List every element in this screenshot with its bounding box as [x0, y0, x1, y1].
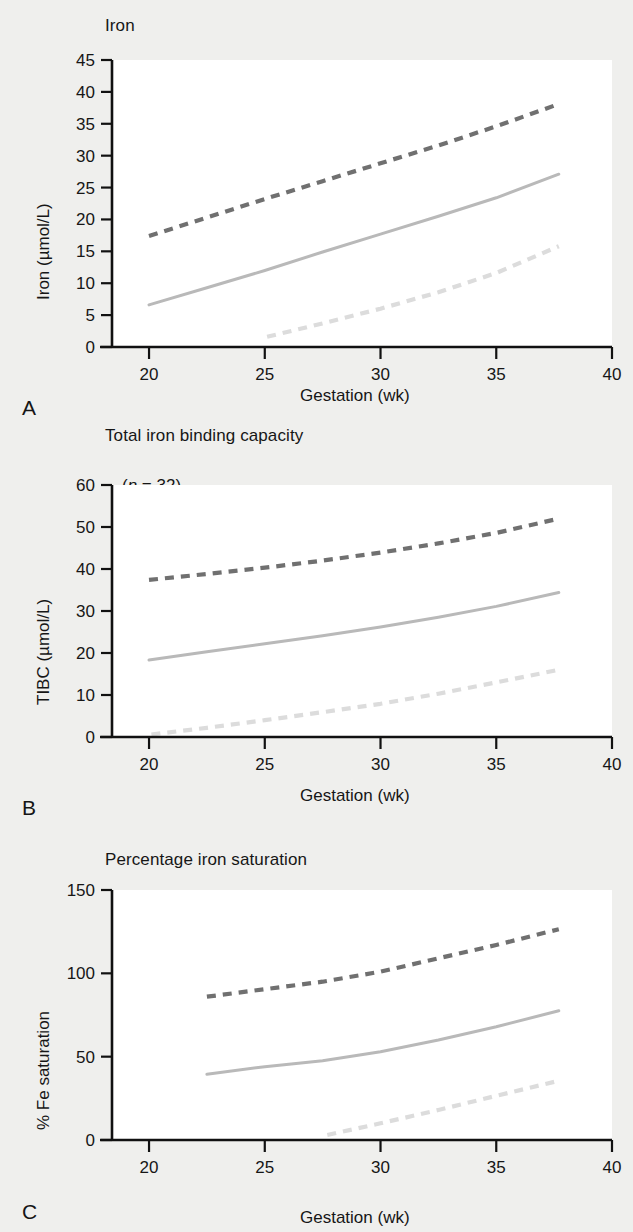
y-tick-label: 35 — [76, 115, 95, 134]
panel-c-plot: 0501001502025303540 — [0, 810, 633, 1232]
x-tick-label: 40 — [603, 1158, 622, 1177]
x-tick-label: 30 — [371, 365, 390, 384]
x-tick-label: 25 — [255, 755, 274, 774]
x-tick-label: 20 — [140, 1158, 159, 1177]
y-tick-label: 40 — [76, 560, 95, 579]
figure-root: Iron (n = 33) Iron (µmol/L) Gestation (w… — [0, 0, 633, 1232]
x-tick-label: 40 — [603, 365, 622, 384]
panel-c: Percentage iron saturation (n = 32) % Fe… — [0, 810, 633, 1232]
y-tick-label: 10 — [76, 686, 95, 705]
x-tick-label: 25 — [255, 365, 274, 384]
panel-a-plot: 0510152025303540452025303540 — [0, 0, 633, 410]
panel-b: Total iron binding capacity (n = 32) TIB… — [0, 410, 633, 810]
x-tick-label: 20 — [140, 755, 159, 774]
x-tick-label: 35 — [487, 755, 506, 774]
x-tick-label: 30 — [371, 1158, 390, 1177]
panel-a: Iron (n = 33) Iron (µmol/L) Gestation (w… — [0, 0, 633, 410]
y-tick-label: 100 — [67, 964, 95, 983]
y-tick-label: 30 — [76, 602, 95, 621]
y-tick-label: 50 — [76, 1048, 95, 1067]
y-tick-label: 0 — [86, 1131, 95, 1150]
y-tick-label: 0 — [86, 338, 95, 357]
panel-b-plot: 01020304050602025303540 — [0, 410, 633, 810]
x-tick-label: 25 — [255, 1158, 274, 1177]
y-tick-label: 45 — [76, 51, 95, 70]
y-tick-label: 15 — [76, 242, 95, 261]
x-tick-label: 35 — [487, 1158, 506, 1177]
x-tick-label: 35 — [487, 365, 506, 384]
y-tick-label: 5 — [86, 306, 95, 325]
y-tick-label: 25 — [76, 179, 95, 198]
y-tick-label: 60 — [76, 476, 95, 495]
y-tick-label: 0 — [86, 728, 95, 747]
y-tick-label: 150 — [67, 881, 95, 900]
y-tick-label: 20 — [76, 210, 95, 229]
y-tick-label: 50 — [76, 518, 95, 537]
y-tick-label: 30 — [76, 147, 95, 166]
x-tick-label: 20 — [140, 365, 159, 384]
y-tick-label: 20 — [76, 644, 95, 663]
x-tick-label: 40 — [603, 755, 622, 774]
x-tick-label: 30 — [371, 755, 390, 774]
y-tick-label: 10 — [76, 274, 95, 293]
y-tick-label: 40 — [76, 83, 95, 102]
